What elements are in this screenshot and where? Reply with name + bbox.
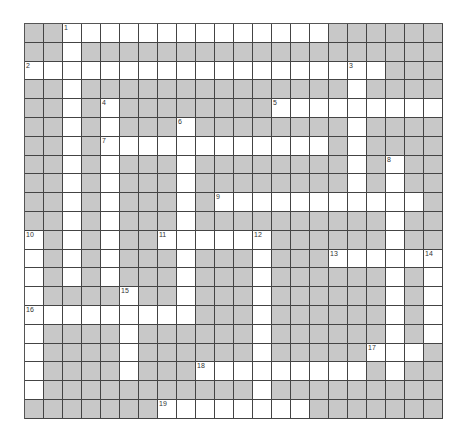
answer-cell[interactable] (386, 287, 405, 306)
answer-cell[interactable] (234, 231, 253, 250)
answer-cell[interactable] (177, 156, 196, 175)
answer-cell[interactable] (196, 231, 215, 250)
answer-cell[interactable] (177, 287, 196, 306)
answer-cell[interactable] (348, 174, 367, 193)
answer-cell[interactable] (234, 24, 253, 43)
answer-cell[interactable] (386, 362, 405, 381)
answer-cell[interactable] (405, 99, 424, 118)
answer-cell[interactable] (63, 62, 82, 81)
answer-cell[interactable] (177, 24, 196, 43)
answer-cell[interactable] (101, 193, 120, 212)
answer-cell[interactable] (120, 62, 139, 81)
answer-cell[interactable] (348, 362, 367, 381)
answer-cell[interactable] (386, 193, 405, 212)
answer-cell[interactable] (101, 156, 120, 175)
answer-cell[interactable] (386, 250, 405, 269)
answer-cell[interactable] (405, 193, 424, 212)
answer-cell[interactable] (424, 325, 443, 344)
answer-cell[interactable] (177, 137, 196, 156)
answer-cell[interactable] (63, 174, 82, 193)
answer-cell[interactable] (253, 287, 272, 306)
answer-cell[interactable] (25, 325, 44, 344)
answer-cell[interactable]: 2 (25, 62, 44, 81)
answer-cell[interactable] (386, 344, 405, 363)
answer-cell[interactable] (177, 268, 196, 287)
answer-cell[interactable] (177, 400, 196, 419)
answer-cell[interactable] (348, 137, 367, 156)
answer-cell[interactable] (101, 174, 120, 193)
answer-cell[interactable] (63, 80, 82, 99)
answer-cell[interactable] (253, 193, 272, 212)
answer-cell[interactable] (63, 193, 82, 212)
answer-cell[interactable] (348, 99, 367, 118)
answer-cell[interactable]: 7 (101, 137, 120, 156)
answer-cell[interactable] (310, 24, 329, 43)
answer-cell[interactable] (253, 268, 272, 287)
answer-cell[interactable]: 11 (158, 231, 177, 250)
answer-cell[interactable] (158, 62, 177, 81)
answer-cell[interactable] (63, 231, 82, 250)
answer-cell[interactable] (215, 231, 234, 250)
answer-cell[interactable] (386, 325, 405, 344)
answer-cell[interactable] (177, 306, 196, 325)
answer-cell[interactable] (63, 43, 82, 62)
answer-cell[interactable] (424, 306, 443, 325)
answer-cell[interactable] (215, 24, 234, 43)
answer-cell[interactable] (329, 362, 348, 381)
answer-cell[interactable] (63, 156, 82, 175)
answer-cell[interactable] (44, 62, 63, 81)
answer-cell[interactable]: 5 (272, 99, 291, 118)
answer-cell[interactable] (234, 137, 253, 156)
answer-cell[interactable]: 14 (424, 250, 443, 269)
answer-cell[interactable]: 18 (196, 362, 215, 381)
answer-cell[interactable] (196, 400, 215, 419)
answer-cell[interactable] (177, 174, 196, 193)
answer-cell[interactable] (25, 250, 44, 269)
answer-cell[interactable] (253, 362, 272, 381)
answer-cell[interactable] (158, 137, 177, 156)
answer-cell[interactable] (253, 400, 272, 419)
answer-cell[interactable]: 4 (101, 99, 120, 118)
answer-cell[interactable] (215, 137, 234, 156)
answer-cell[interactable] (63, 268, 82, 287)
answer-cell[interactable]: 17 (367, 344, 386, 363)
answer-cell[interactable] (139, 306, 158, 325)
answer-cell[interactable] (291, 193, 310, 212)
answer-cell[interactable] (291, 137, 310, 156)
answer-cell[interactable] (424, 268, 443, 287)
answer-cell[interactable] (310, 362, 329, 381)
answer-cell[interactable]: 1 (63, 24, 82, 43)
answer-cell[interactable] (63, 250, 82, 269)
answer-cell[interactable] (291, 400, 310, 419)
answer-cell[interactable] (120, 362, 139, 381)
answer-cell[interactable] (139, 62, 158, 81)
answer-cell[interactable] (101, 250, 120, 269)
answer-cell[interactable]: 15 (120, 287, 139, 306)
answer-cell[interactable]: 6 (177, 118, 196, 137)
answer-cell[interactable] (291, 62, 310, 81)
answer-cell[interactable] (272, 137, 291, 156)
answer-cell[interactable] (139, 137, 158, 156)
answer-cell[interactable] (158, 306, 177, 325)
answer-cell[interactable] (101, 212, 120, 231)
answer-cell[interactable] (158, 24, 177, 43)
answer-cell[interactable] (234, 362, 253, 381)
answer-cell[interactable] (63, 137, 82, 156)
answer-cell[interactable] (310, 99, 329, 118)
answer-cell[interactable] (82, 62, 101, 81)
answer-cell[interactable] (367, 193, 386, 212)
answer-cell[interactable] (44, 306, 63, 325)
answer-cell[interactable] (291, 99, 310, 118)
answer-cell[interactable] (348, 250, 367, 269)
answer-cell[interactable]: 13 (329, 250, 348, 269)
answer-cell[interactable] (386, 212, 405, 231)
answer-cell[interactable] (329, 193, 348, 212)
answer-cell[interactable] (120, 24, 139, 43)
answer-cell[interactable] (82, 24, 101, 43)
answer-cell[interactable] (329, 62, 348, 81)
answer-cell[interactable] (25, 381, 44, 400)
answer-cell[interactable] (234, 400, 253, 419)
answer-cell[interactable] (120, 137, 139, 156)
answer-cell[interactable] (405, 344, 424, 363)
answer-cell[interactable] (63, 212, 82, 231)
